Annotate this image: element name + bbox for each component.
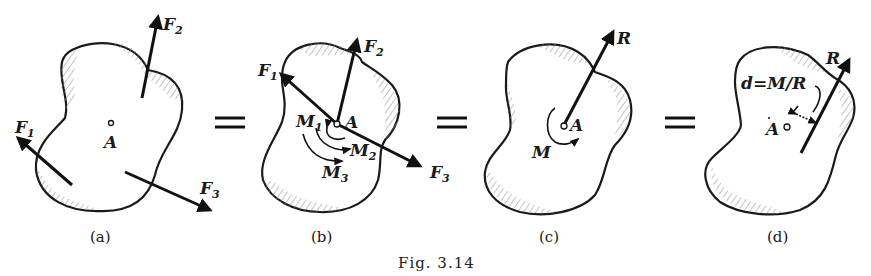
resultant-r-label: R (616, 28, 631, 48)
rigid-body-outline (485, 45, 632, 215)
equals-sign (437, 118, 467, 127)
point-a-label: A (343, 112, 358, 132)
distance-d-dimension (796, 114, 816, 123)
fig-3-14-diagram: A F1 F2 F3 (a) F1 F2 F3 A M1 M2 M3 (b) (0, 0, 871, 276)
panel-b: F1 F2 F3 A M1 M2 M3 (b) (257, 36, 450, 246)
hatch-shading (775, 46, 826, 72)
force-f2-label: F2 (363, 36, 384, 59)
hatch-shading (486, 165, 560, 214)
panel-d-caption: (d) (767, 228, 788, 246)
resultant-r-label: R (825, 48, 840, 68)
hatch-shading (36, 170, 100, 210)
moment-m1-label: M1 (295, 111, 322, 134)
force-f1-label: F1 (257, 60, 278, 83)
force-f3-label: F3 (199, 178, 220, 201)
distance-d-leader (813, 86, 820, 112)
hatch-shading (711, 165, 785, 213)
hatch-shading (108, 42, 182, 100)
distance-formula-label: d=M/R (741, 73, 806, 93)
figure-caption: Fig. 3.14 (398, 254, 475, 272)
panel-c-caption: (c) (539, 228, 559, 246)
force-f1-label: F1 (14, 117, 35, 140)
dot-marker (768, 117, 770, 119)
point-a-label: A (764, 119, 779, 139)
hatch-shading (535, 43, 590, 63)
point-a-marker (561, 123, 567, 129)
force-f2-label: F2 (162, 14, 183, 37)
force-f3-label: F3 (429, 162, 450, 185)
hatch-shading (507, 82, 515, 128)
point-a-label: A (102, 132, 117, 152)
moment-m1-arrow (327, 127, 345, 139)
moment-m-label: M (531, 142, 552, 162)
force-f3-arrow (125, 172, 210, 210)
hatch-shading (263, 180, 345, 212)
hatch-shading (300, 43, 352, 56)
point-a-label: A (568, 115, 583, 135)
moment-m3-label: M3 (321, 162, 349, 185)
force-f1-arrow (18, 138, 72, 185)
panel-a-caption: (a) (90, 228, 111, 246)
equals-sign (665, 118, 695, 127)
rigid-body-outline (36, 43, 182, 211)
rigid-body-outline (262, 43, 399, 212)
panel-c: R A M (c) (485, 28, 632, 246)
moment-m3-arrow (303, 134, 342, 161)
point-a-marker (334, 121, 340, 127)
panel-d: R A d=M/R (d) (705, 46, 854, 246)
point-a-marker (109, 121, 114, 126)
panel-a: A F1 F2 F3 (a) (14, 14, 220, 246)
force-f2-arrow (142, 17, 158, 98)
equals-sign (215, 118, 245, 127)
point-a-marker (784, 124, 790, 130)
distance-d-tick (794, 106, 798, 111)
panel-b-caption: (b) (311, 228, 332, 246)
